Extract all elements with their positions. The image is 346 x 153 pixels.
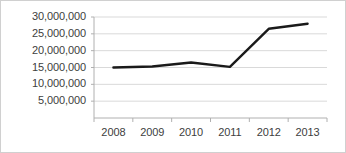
- x-axis-tick-label: 2013: [288, 127, 328, 138]
- x-axis-tick-label: 2012: [249, 127, 289, 138]
- x-axis-tick-label: 2010: [171, 127, 211, 138]
- x-axis-tick-label: 2008: [93, 127, 133, 138]
- y-axis-tick-label: 10,000,000: [32, 78, 86, 89]
- x-axis-tick-label: 2009: [132, 127, 172, 138]
- y-axis-tick-label: 25,000,000: [32, 28, 86, 39]
- data-series-line: [113, 24, 307, 68]
- gridline-group: [94, 17, 327, 101]
- chart-figure: 5,000,00010,000,00015,000,00020,000,0002…: [0, 0, 346, 153]
- y-axis-tick-label: 30,000,000: [32, 11, 86, 22]
- y-axis-tick-label: 20,000,000: [32, 45, 86, 56]
- y-axis-tick-label: 15,000,000: [32, 62, 86, 73]
- x-axis-tick-label: 2011: [210, 127, 250, 138]
- x-tick-mark-group: [94, 118, 327, 122]
- y-axis-tick-label: 5,000,000: [38, 95, 86, 106]
